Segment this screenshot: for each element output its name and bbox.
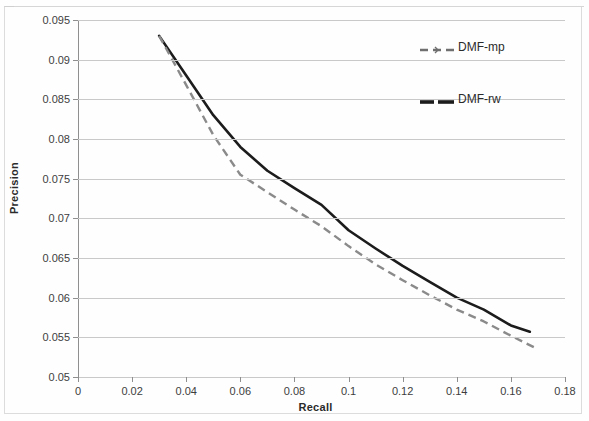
legend-swatch-solid (420, 98, 454, 106)
chart-legend: DMF-mp DMF-rw (420, 38, 560, 142)
x-tick (349, 377, 350, 382)
y-tick (73, 20, 78, 21)
y-tick-label: 0.095 (42, 14, 70, 26)
y-tick-label: 0.075 (42, 173, 70, 185)
y-tick-label: 0.05 (49, 371, 70, 383)
x-tick-label: 0.02 (121, 385, 142, 397)
y-tick-label: 0.055 (42, 331, 70, 343)
x-tick-label: 0.12 (392, 385, 413, 397)
x-tick (403, 377, 404, 382)
x-tick (240, 377, 241, 382)
y-tick-label: 0.09 (49, 54, 70, 66)
x-tick-label: 0.08 (284, 385, 305, 397)
gridline (78, 20, 565, 21)
x-tick (78, 377, 79, 382)
legend-item-dmf-mp: DMF-mp (420, 38, 560, 60)
y-tick-label: 0.065 (42, 252, 70, 264)
y-tick (73, 218, 78, 219)
gridline (78, 179, 565, 180)
gridline (78, 218, 565, 219)
x-axis-ticks (78, 377, 566, 383)
x-tick-label: 0.1 (341, 385, 356, 397)
y-tick-label: 0.08 (49, 133, 70, 145)
x-tick (132, 377, 133, 382)
gridline (78, 258, 565, 259)
legend-label-dmf-mp: DMF-mp (458, 40, 505, 54)
y-tick-label: 0.07 (49, 212, 70, 224)
x-tick-label: 0.18 (554, 385, 575, 397)
y-tick (73, 139, 78, 140)
y-axis-title: Precision (8, 162, 20, 214)
gridline (78, 337, 565, 338)
legend-item-dmf-rw: DMF-rw (420, 90, 560, 112)
y-tick (73, 179, 78, 180)
y-tick (73, 298, 78, 299)
gridline (78, 298, 565, 299)
y-tick-label: 0.085 (42, 93, 70, 105)
legend-swatch-dashed (420, 46, 454, 54)
y-tick-label: 0.06 (49, 292, 70, 304)
x-tick (294, 377, 295, 382)
chart-figure: 0.050.0550.060.0650.070.0750.080.0850.09… (0, 0, 589, 421)
x-tick-label: 0 (75, 385, 81, 397)
legend-label-dmf-rw: DMF-rw (458, 92, 501, 106)
x-tick (457, 377, 458, 382)
x-axis-tick-labels: 00.020.040.060.080.10.120.140.160.18 (78, 385, 566, 401)
y-tick (73, 99, 78, 100)
y-tick (73, 337, 78, 338)
x-tick-label: 0.06 (230, 385, 251, 397)
x-tick (511, 377, 512, 382)
x-tick-label: 0.16 (500, 385, 521, 397)
y-tick (73, 60, 78, 61)
x-tick-label: 0.14 (446, 385, 467, 397)
y-tick (73, 258, 78, 259)
x-tick-label: 0.04 (176, 385, 197, 397)
scan-artifact-line (14, 6, 584, 7)
x-axis-title: Recall (0, 401, 589, 413)
x-axis-title-text: Recall (256, 401, 332, 413)
x-tick (565, 377, 566, 382)
x-tick (186, 377, 187, 382)
